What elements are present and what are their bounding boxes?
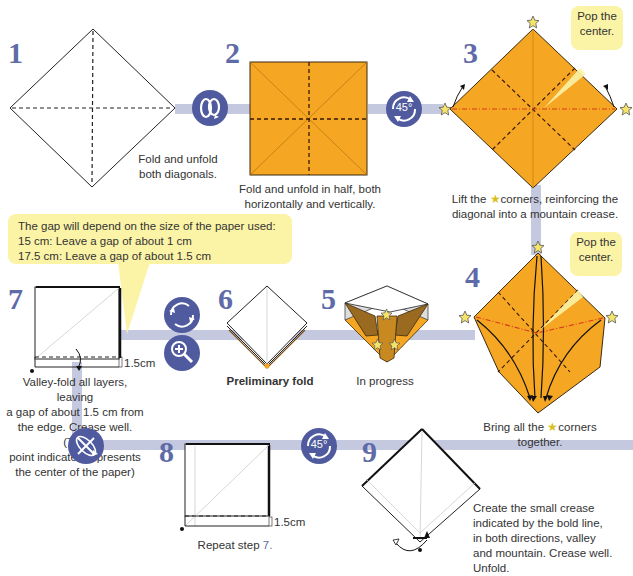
step9-caption: Create the small crease indicated by the…: [473, 501, 633, 576]
